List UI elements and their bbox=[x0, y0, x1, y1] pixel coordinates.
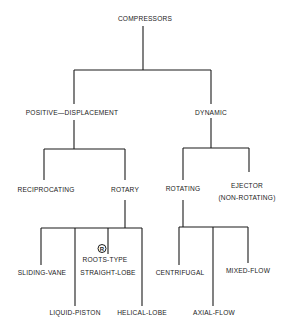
node-liquid-piston: LIQUID-PISTON bbox=[49, 310, 100, 317]
tree-connectors bbox=[0, 0, 288, 331]
node-mixed-flow: MIXED-FLOW bbox=[226, 268, 270, 275]
node-ejector: EJECTOR bbox=[231, 183, 263, 190]
node-straight-lobe: STRAIGHT-LOBE bbox=[80, 270, 135, 277]
node-axial-flow: AXIAL-FLOW bbox=[193, 310, 235, 317]
node-reciprocating: RECIPROCATING bbox=[17, 187, 74, 194]
node-rotary: ROTARY bbox=[111, 187, 139, 194]
node-rotating: ROTATING bbox=[166, 186, 201, 193]
registered-trademark-icon: R bbox=[98, 244, 107, 253]
node-ejector-subtitle: (NON-ROTATING) bbox=[218, 195, 275, 202]
node-centrifugal: CENTRIFUGAL bbox=[156, 270, 205, 277]
node-helical-lobe: HELICAL-LOBE bbox=[117, 310, 167, 317]
node-sliding-vane: SLIDING-VANE bbox=[18, 270, 66, 277]
node-dynamic: DYNAMIC bbox=[195, 110, 227, 117]
node-compressors: COMPRESSORS bbox=[118, 16, 172, 23]
node-positive-displacement: POSITIVE—DISPLACEMENT bbox=[26, 110, 119, 117]
node-roots-type: ROOTS-TYPE bbox=[83, 257, 128, 264]
